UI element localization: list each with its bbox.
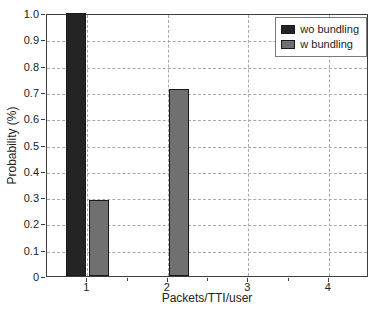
y-tick-label: 0.5	[9, 140, 39, 152]
legend-swatch-wo-bundling	[281, 25, 295, 34]
legend-item: wo bundling	[281, 22, 359, 37]
x-minor-tick	[288, 278, 289, 281]
legend-swatch-w-bundling	[281, 40, 295, 49]
x-tick-label: 1	[71, 281, 101, 293]
y-tick	[41, 67, 45, 68]
y-tick-label: 0.4	[9, 166, 39, 178]
y-tick-label: 1.0	[9, 8, 39, 20]
y-tick	[41, 119, 45, 120]
legend-label: wo bundling	[300, 22, 359, 37]
x-tick-label: 2	[152, 281, 182, 293]
y-tick	[41, 277, 45, 278]
x-axis-title: Packets/TTI/user	[46, 291, 368, 305]
y-tick-label: 0.8	[9, 61, 39, 73]
y-tick	[41, 93, 45, 94]
y-tick	[41, 198, 45, 199]
bar-wo-bundling-cat1	[66, 13, 86, 276]
h-gridline	[47, 173, 367, 174]
x-tick-label: 3	[232, 281, 262, 293]
y-tick	[41, 40, 45, 41]
x-tick-label: 4	[313, 281, 343, 293]
y-tick-label: 0.7	[9, 87, 39, 99]
h-gridline	[47, 147, 367, 148]
y-tick-label: 0.9	[9, 34, 39, 46]
legend-item: w bundling	[281, 37, 359, 52]
h-gridline	[47, 94, 367, 95]
bar-w-bundling-cat1	[89, 200, 109, 276]
v-gridline	[248, 15, 249, 276]
bar-chart-figure: Probability (%) Packets/TTI/user wo bund…	[0, 0, 378, 315]
h-gridline	[47, 68, 367, 69]
h-gridline	[47, 120, 367, 121]
y-tick	[41, 224, 45, 225]
y-tick-label: 0	[9, 271, 39, 283]
x-minor-tick	[207, 278, 208, 281]
legend: wo bundlingw bundling	[275, 17, 367, 57]
y-tick-label: 0.6	[9, 113, 39, 125]
y-tick-label: 0.3	[9, 192, 39, 204]
y-tick-label: 0.2	[9, 218, 39, 230]
legend-label: w bundling	[300, 37, 353, 52]
y-tick-label: 0.1	[9, 245, 39, 257]
y-tick	[41, 146, 45, 147]
x-minor-tick	[127, 278, 128, 281]
y-tick	[41, 14, 45, 15]
y-tick	[41, 172, 45, 173]
y-tick	[41, 251, 45, 252]
bar-w-bundling-cat2	[169, 89, 189, 276]
